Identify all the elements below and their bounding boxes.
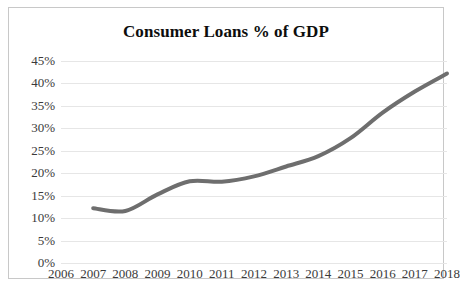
gridline [61,263,447,264]
line-series-consumer-loans [61,61,447,263]
x-tick-label: 2010 [177,266,203,282]
x-tick-label: 2007 [80,266,106,282]
x-tick-label: 2009 [145,266,171,282]
y-tick-label: 25% [13,143,55,159]
y-tick-label: 10% [13,210,55,226]
y-tick-label: 20% [13,165,55,181]
x-tick-label: 2018 [434,266,460,282]
x-tick-label: 2015 [338,266,364,282]
y-tick-label: 45% [13,53,55,69]
x-tick-label: 2014 [305,266,331,282]
x-tick-label: 2006 [48,266,74,282]
y-tick-label: 35% [13,98,55,114]
chart-title: Consumer Loans % of GDP [9,22,443,42]
x-tick-label: 2011 [209,266,235,282]
chart-frame: Consumer Loans % of GDP 45%40%35%30%25%2… [8,7,444,279]
x-tick-label: 2008 [112,266,138,282]
series-path [93,74,447,212]
plot-area [61,61,447,263]
x-tick-label: 2017 [402,266,428,282]
y-tick-label: 5% [13,233,55,249]
y-axis: 45%40%35%30%25%20%15%10%5%0% [9,61,55,263]
y-tick-label: 15% [13,188,55,204]
x-tick-label: 2016 [370,266,396,282]
x-axis: 2006200720082009201020112012201320142015… [61,266,447,288]
y-tick-label: 40% [13,75,55,91]
x-tick-label: 2013 [273,266,299,282]
y-tick-label: 30% [13,120,55,136]
x-tick-label: 2012 [241,266,267,282]
